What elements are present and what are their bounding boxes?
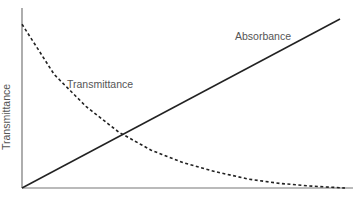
transmittance-curve bbox=[22, 24, 345, 188]
absorbance-transmittance-chart: Transmittance Absorbance Transmittance bbox=[0, 0, 353, 197]
transmittance-label: Transmittance bbox=[67, 78, 133, 90]
absorbance-label: Absorbance bbox=[235, 30, 291, 42]
y-axis-label: Transmittance bbox=[0, 84, 12, 150]
